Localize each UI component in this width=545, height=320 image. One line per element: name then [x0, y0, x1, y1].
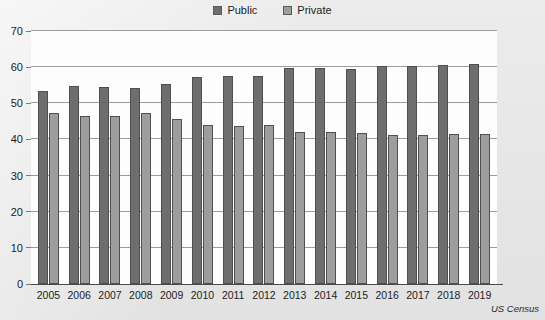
bar-public-2008 [130, 88, 140, 284]
x-axis-label: 2010 [187, 288, 218, 304]
bar-private-2019 [480, 134, 490, 284]
bar-group [279, 31, 310, 284]
y-tick-label: 30 [5, 170, 23, 182]
chart-legend: Public Private [0, 2, 545, 18]
x-axis-line [31, 284, 503, 285]
x-axis-label: 2013 [279, 288, 310, 304]
bar-public-2016 [377, 66, 387, 284]
bar-public-2010 [192, 77, 202, 284]
bar-public-2017 [407, 66, 417, 284]
y-tick-label: 70 [5, 25, 23, 37]
bar-group [341, 31, 372, 284]
bar-private-2008 [141, 113, 151, 284]
x-axis-label: 2007 [95, 288, 126, 304]
plot-area: 010203040506070 [31, 31, 497, 284]
y-tick-label: 40 [5, 133, 23, 145]
bar-private-2009 [172, 119, 182, 284]
bar-group [372, 31, 403, 284]
bar-group [95, 31, 126, 284]
bar-group [218, 31, 249, 284]
bar-private-2007 [110, 116, 120, 284]
x-axis-label: 2015 [341, 288, 372, 304]
bar-group [125, 31, 156, 284]
legend-entry-public: Public [213, 5, 257, 16]
bar-public-2015 [346, 69, 356, 284]
bar-group [433, 31, 464, 284]
bar-group [403, 31, 434, 284]
bar-group [187, 31, 218, 284]
bar-private-2011 [234, 126, 244, 284]
bar-groups [31, 31, 497, 284]
bar-private-2018 [449, 134, 459, 284]
bar-private-2005 [49, 113, 59, 284]
bar-private-2010 [203, 125, 213, 284]
x-axis-label: 2012 [249, 288, 280, 304]
y-tick: 30 [5, 170, 31, 182]
y-tick: 50 [5, 97, 31, 109]
bar-private-2017 [418, 135, 428, 284]
y-tick-label: 10 [5, 242, 23, 254]
x-axis-label: 2019 [464, 288, 495, 304]
bar-group [249, 31, 280, 284]
bar-private-2015 [357, 133, 367, 284]
x-axis-label: 2008 [125, 288, 156, 304]
y-tick: 20 [5, 206, 31, 218]
bar-private-2006 [80, 116, 90, 284]
x-axis-labels: 2005200620072008200920102011201220132014… [31, 288, 497, 304]
x-axis-label: 2017 [403, 288, 434, 304]
x-axis-label: 2014 [310, 288, 341, 304]
source-note: US Census [491, 303, 539, 314]
bar-group [33, 31, 64, 284]
legend-swatch-public [213, 6, 222, 15]
bar-private-2012 [264, 125, 274, 284]
bar-group [464, 31, 495, 284]
x-axis-label: 2009 [156, 288, 187, 304]
y-tick-label: 20 [5, 206, 23, 218]
bar-public-2013 [284, 68, 294, 284]
bar-private-2014 [326, 132, 336, 284]
y-tick: 40 [5, 133, 31, 145]
bar-public-2007 [99, 87, 109, 284]
x-axis-label: 2006 [64, 288, 95, 304]
legend-swatch-private [283, 6, 292, 15]
x-axis-label: 2016 [372, 288, 403, 304]
bar-group [156, 31, 187, 284]
y-tick-label: 0 [5, 278, 23, 290]
y-tick: 0 [5, 278, 31, 290]
bar-public-2005 [38, 91, 48, 284]
y-tick: 60 [5, 61, 31, 73]
y-tick-label: 60 [5, 61, 23, 73]
x-axis-label: 2005 [33, 288, 64, 304]
bar-public-2006 [69, 86, 79, 284]
x-axis-label: 2011 [218, 288, 249, 304]
bar-private-2013 [295, 132, 305, 284]
bar-public-2012 [253, 76, 263, 284]
legend-label-public: Public [227, 5, 257, 16]
bar-group [310, 31, 341, 284]
bar-public-2009 [161, 84, 171, 284]
bar-private-2016 [388, 135, 398, 284]
x-axis-label: 2018 [433, 288, 464, 304]
y-tick: 10 [5, 242, 31, 254]
bar-group [64, 31, 95, 284]
bar-public-2011 [223, 76, 233, 284]
bar-public-2019 [469, 64, 479, 284]
y-tick: 70 [5, 25, 31, 37]
legend-label-private: Private [297, 5, 331, 16]
legend-entry-private: Private [283, 5, 331, 16]
bar-public-2018 [438, 65, 448, 284]
y-tick-label: 50 [5, 97, 23, 109]
bar-public-2014 [315, 68, 325, 284]
